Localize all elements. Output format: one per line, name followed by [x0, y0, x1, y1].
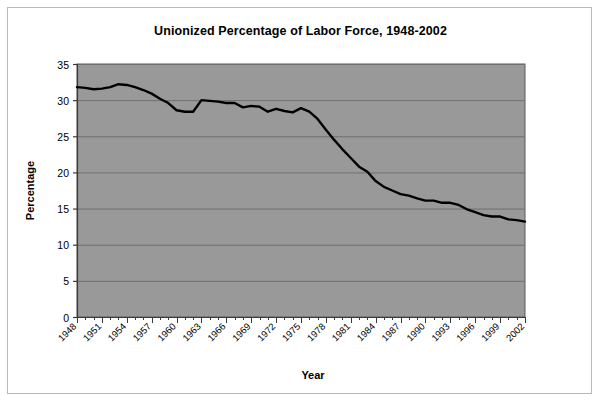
y-tick-label: 10 [57, 239, 69, 251]
x-tick-label: 1969 [230, 321, 253, 344]
y-tick-label: 5 [63, 275, 69, 287]
x-tick-label-group: 1978 [305, 321, 328, 344]
x-tick-label-group: 1963 [180, 321, 203, 344]
x-tick-label: 1990 [404, 321, 427, 344]
x-tick-label: 1981 [329, 321, 352, 344]
x-tick-label: 1972 [255, 321, 278, 344]
x-tick-label: 1960 [155, 321, 178, 344]
chart-frame: Unionized Percentage of Labor Force, 194… [7, 7, 592, 394]
x-tick-label: 1987 [379, 321, 402, 344]
x-tick-label: 1999 [479, 321, 502, 344]
x-tick-label: 1951 [81, 321, 104, 344]
x-tick-label: 1966 [205, 321, 228, 344]
x-tick-label-group: 1981 [329, 321, 352, 344]
x-tick-label-group: 1972 [255, 321, 278, 344]
x-tick-label-group: 1999 [479, 321, 502, 344]
x-tick-label: 1984 [354, 321, 377, 344]
y-tick-label: 35 [57, 59, 69, 71]
y-tick-label: 20 [57, 167, 69, 179]
x-tick-label: 1957 [130, 321, 153, 344]
y-tick-label: 25 [57, 131, 69, 143]
y-tick-label: 30 [57, 95, 69, 107]
x-tick-label: 1948 [56, 321, 79, 344]
x-tick-label: 1978 [305, 321, 328, 344]
x-tick-label: 1975 [280, 321, 303, 344]
y-axis-title-group: Percentage [24, 161, 36, 220]
plot-background [77, 64, 525, 317]
x-tick-label-group: 1975 [280, 321, 303, 344]
x-tick-label-group: 1984 [354, 321, 377, 344]
x-tick-label-group: 1996 [454, 321, 477, 344]
x-tick-label-group: 1954 [105, 321, 128, 344]
x-tick-label-group: 1948 [56, 321, 79, 344]
x-tick-label-group: 1951 [81, 321, 104, 344]
line-chart: 0510152025303519481951195419571960196319… [8, 8, 593, 395]
y-tick-label: 15 [57, 203, 69, 215]
chart-plot-area: 0510152025303519481951195419571960196319… [8, 8, 593, 395]
x-tick-label-group: 1960 [155, 321, 178, 344]
y-axis-title: Percentage [24, 161, 36, 220]
x-tick-label-group: 1966 [205, 321, 228, 344]
x-tick-label: 2002 [504, 321, 527, 344]
x-tick-label-group: 2002 [504, 321, 527, 344]
x-tick-label: 1996 [454, 321, 477, 344]
x-tick-label-group: 1969 [230, 321, 253, 344]
x-tick-label-group: 1987 [379, 321, 402, 344]
x-tick-label: 1954 [105, 321, 128, 344]
x-tick-label: 1963 [180, 321, 203, 344]
x-tick-label-group: 1957 [130, 321, 153, 344]
x-tick-label-group: 1990 [404, 321, 427, 344]
x-axis-title: Year [301, 369, 325, 381]
x-tick-label-group: 1993 [429, 321, 452, 344]
x-tick-label: 1993 [429, 321, 452, 344]
